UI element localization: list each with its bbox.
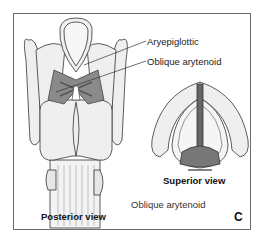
figure-caption: Oblique arytenoid [131,200,205,210]
callout-aryepiglottic: Aryepiglottic [147,37,199,47]
panel-letter: C [234,211,243,223]
superior-view-label: Superior view [163,176,225,186]
posterior-view-label: Posterior view [41,212,106,222]
superior-view-drawing [152,82,249,170]
callout-oblique-arytenoid: Oblique arytenoid [147,57,221,67]
posterior-view-drawing [24,18,127,228]
